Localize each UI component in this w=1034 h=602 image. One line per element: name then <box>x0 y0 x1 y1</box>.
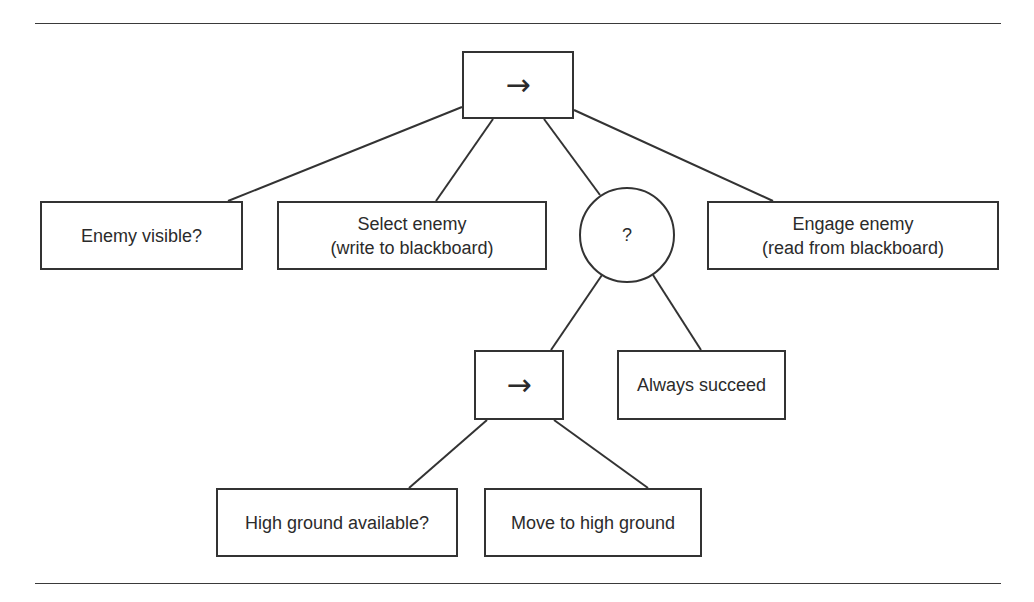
select-enemy-node: Select enemy (write to blackboard) <box>277 201 547 270</box>
edge-root_sequence-to-select_enemy <box>436 119 493 201</box>
high-ground-available-node: High ground available? <box>216 488 458 557</box>
sequence-arrow-icon: → <box>506 373 531 397</box>
bottom-rule <box>35 583 1001 584</box>
selector-node: ? <box>579 187 675 283</box>
root-sequence-node: → <box>462 51 574 119</box>
engage-enemy-node: Engage enemy (read from blackboard) <box>707 201 999 270</box>
node-label: Always succeed <box>637 373 766 397</box>
enemy-visible-node: Enemy visible? <box>40 201 243 270</box>
node-label: Select enemy (write to blackboard) <box>330 212 493 260</box>
edge-root_sequence-to-enemy_visible <box>228 107 462 201</box>
node-label: Engage enemy (read from blackboard) <box>762 212 944 260</box>
node-label: High ground available? <box>245 511 429 535</box>
move-to-high-ground-node: Move to high ground <box>484 488 702 557</box>
edge-selector-to-always_succeed <box>653 275 701 350</box>
edge-selector-to-sub_sequence <box>551 275 602 350</box>
sequence-arrow-icon: → <box>505 73 530 97</box>
selector-question-icon: ? <box>622 223 632 247</box>
edge-root_sequence-to-engage_enemy <box>574 110 773 201</box>
always-succeed-node: Always succeed <box>617 350 786 420</box>
node-label: Enemy visible? <box>81 224 202 248</box>
edge-sub_sequence-to-high_ground_available <box>409 420 487 488</box>
edge-root_sequence-to-selector <box>544 119 600 195</box>
node-label: Move to high ground <box>511 511 675 535</box>
edge-sub_sequence-to-move_to_high_ground <box>554 420 648 488</box>
sub-sequence-node: → <box>474 350 564 420</box>
